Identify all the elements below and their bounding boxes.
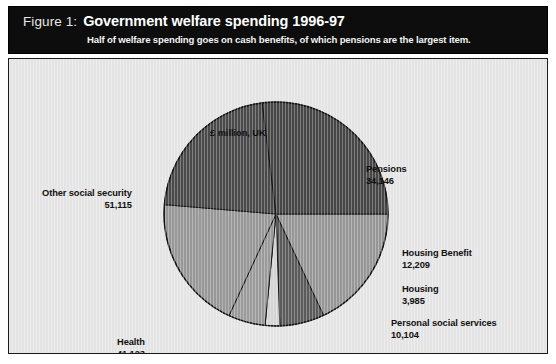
pie-slice-other-social-security — [262, 102, 388, 214]
slice-label-housing-value: 3,985 — [402, 295, 438, 307]
figure-container: Figure 1:Government welfare spending 199… — [0, 0, 556, 364]
figure-number: Figure 1: — [23, 14, 77, 29]
figure-subtitle: Half of welfare spending goes on cash be… — [87, 34, 471, 45]
slice-label-health: Health 41,123 — [117, 336, 145, 354]
slice-label-housing-name: Housing — [402, 284, 438, 294]
slice-label-personal-social-services: Personal social services 10,104 — [391, 317, 497, 341]
slice-label-health-value: 41,123 — [117, 348, 145, 354]
page-title: Government welfare spending 1996-97 — [83, 13, 345, 29]
slice-label-pensions: Pensions 34,146 — [366, 163, 407, 187]
slice-label-pensions-value: 34,146 — [366, 175, 407, 187]
slice-label-housing-benefit: Housing Benefit 12,209 — [402, 247, 472, 271]
slice-label-housing-benefit-name: Housing Benefit — [402, 248, 472, 258]
slice-label-health-name: Health — [117, 337, 145, 347]
slice-label-housing-benefit-value: 12,209 — [402, 259, 472, 271]
chart-panel: £ million, UK Pensions 34,146 Housing Be… — [8, 58, 548, 354]
pie-slice-health — [164, 103, 276, 214]
slice-label-housing: Housing 3,985 — [402, 283, 438, 307]
slice-label-pensions-name: Pensions — [366, 164, 407, 174]
slice-label-other-social-security: Other social security 51,115 — [42, 187, 132, 211]
chart-unit-label: £ million, UK — [210, 128, 266, 138]
figure-header: Figure 1:Government welfare spending 199… — [8, 6, 548, 54]
slice-label-other-social-security-name: Other social security — [42, 188, 132, 198]
slice-label-other-social-security-value: 51,115 — [42, 199, 132, 211]
slice-label-personal-social-services-value: 10,104 — [391, 329, 497, 341]
figure-title-line: Figure 1:Government welfare spending 199… — [23, 12, 345, 30]
slice-label-personal-social-services-name: Personal social services — [391, 318, 497, 328]
